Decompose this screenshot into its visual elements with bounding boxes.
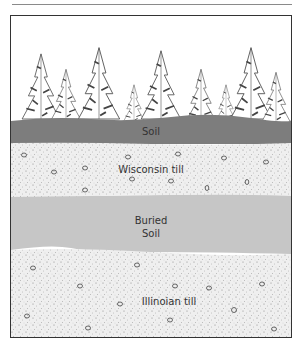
top-rule — [12, 4, 292, 5]
wisconsin-till-label: Wisconsin till — [111, 164, 191, 176]
illinoian-till-layer — [11, 249, 291, 337]
soil-label: Soil — [136, 126, 166, 138]
cross-section-frame: Soil Wisconsin till Buried Soil Illinoia… — [10, 15, 292, 338]
cross-section-drawing — [11, 16, 291, 337]
illinoian-till-label: Illinoian till — [129, 296, 209, 308]
buried-soil-label-line2: Soil — [126, 228, 176, 240]
buried-soil-label-line1: Buried — [126, 215, 176, 227]
forest-illustration — [22, 48, 290, 122]
